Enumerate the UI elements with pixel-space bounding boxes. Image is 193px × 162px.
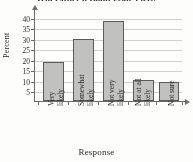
x-tick-label-line: Not very xyxy=(107,80,116,106)
y-tick-label: 30 xyxy=(23,35,31,44)
x-tick-label-line: Somewhat xyxy=(77,74,86,106)
y-tick-label: 35 xyxy=(23,25,31,34)
y-tick-label: 15 xyxy=(23,67,31,76)
chart-title: Will Either a Bond Issue Pass? xyxy=(0,0,193,1)
x-tick-label-line: Not sure xyxy=(167,80,176,106)
x-tick-label-line: likely xyxy=(116,89,125,106)
x-tick-label-line: Very xyxy=(47,92,56,106)
x-tick-label-line: likely xyxy=(86,89,95,106)
y-axis-line xyxy=(34,9,35,102)
y-tick-label: 10 xyxy=(23,77,31,86)
x-axis-title: Response xyxy=(0,147,193,157)
x-tick-label-line: likely xyxy=(143,89,152,106)
y-tick-label: 20 xyxy=(23,56,31,65)
y-tick-label: 5 xyxy=(26,88,30,97)
x-tick-label-line: likely xyxy=(56,89,65,106)
bar-chart-figure: Will Either a Bond Issue Pass? Percent 5… xyxy=(0,0,193,162)
y-tick-label: 25 xyxy=(23,46,31,55)
y-axis-title: Percent xyxy=(2,33,11,58)
y-tick-label: 40 xyxy=(23,14,31,23)
x-tick-label-line: Not at all xyxy=(134,78,143,106)
